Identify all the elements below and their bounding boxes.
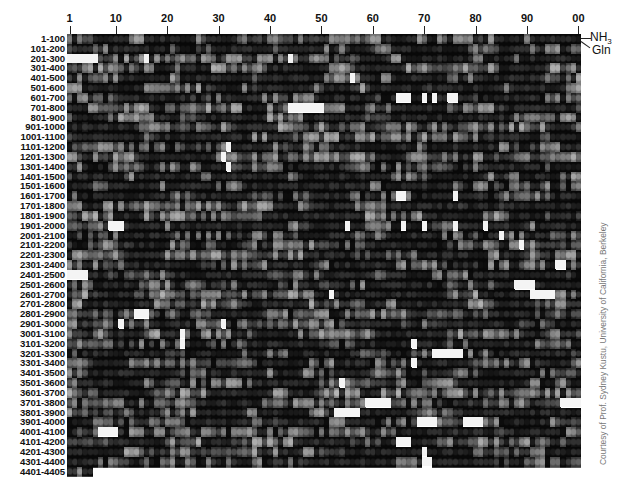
column-tick-label: 00	[572, 13, 584, 24]
row-label: 4401-4405	[0, 467, 65, 477]
column-tick-label: 90	[521, 13, 533, 24]
column-tick-label: 10	[110, 13, 122, 24]
column-tick-label: 30	[213, 13, 225, 24]
column-tick-label: 40	[264, 13, 276, 24]
column-tick-label: 70	[418, 13, 430, 24]
column-tick-label: 80	[470, 13, 482, 24]
column-tick-label: 50	[315, 13, 327, 24]
legend-line-gln	[581, 41, 591, 48]
gene-array-figure: 110203040506070809000 1-100101-200201-30…	[0, 0, 623, 488]
legend-label-gln: Gln	[592, 44, 611, 56]
column-tick-label: 60	[367, 13, 379, 24]
column-tick-label: 1	[67, 13, 73, 24]
spot-grid	[67, 34, 581, 476]
column-tick-label: 20	[161, 13, 173, 24]
image-credit: Courtesy of Prof. Sydney Kustu, Universi…	[598, 222, 608, 465]
